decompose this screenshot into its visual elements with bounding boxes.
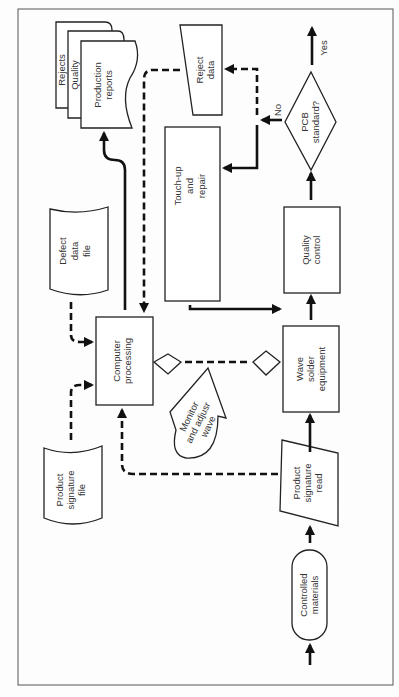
reject-data-node: Reject data (180, 25, 222, 115)
svg-text:Computer: Computer (111, 340, 122, 382)
no-label: No (272, 104, 283, 116)
controlled-materials-node: Controlled materials (292, 550, 327, 640)
flow-touchup-to-qc (190, 305, 280, 309)
svg-text:Quality: Quality (300, 235, 311, 265)
reports-stack: Rejects Quality Production reports (56, 22, 138, 128)
svg-text:signature: signature (65, 470, 76, 509)
svg-text:materials: materials (309, 575, 320, 614)
computer-processing-node: Computer processing (96, 317, 153, 405)
rejects-label: Rejects (56, 54, 67, 86)
product-signature-read-node: Product signature read (280, 440, 338, 526)
production-label: Production (92, 62, 103, 107)
svg-text:Product: Product (291, 466, 302, 499)
svg-text:processing: processing (122, 338, 133, 384)
svg-text:repair: repair (196, 174, 207, 198)
defect-data-file-node: Defect data file (50, 207, 108, 295)
svg-text:solder: solder (305, 356, 316, 382)
svg-text:file: file (76, 484, 87, 496)
flow-defect-to-computer (71, 302, 92, 342)
quality-label: Quality (69, 60, 80, 90)
connector-diamond-right (253, 351, 280, 375)
flow-no-to-touchup (224, 125, 257, 168)
svg-text:Wave: Wave (294, 357, 305, 381)
reports-label: reports (103, 70, 114, 100)
svg-text:standard?: standard? (310, 101, 321, 143)
monitor-adjust-node: Monitor and adjusr wave (170, 368, 226, 458)
svg-text:data: data (205, 60, 216, 79)
connector-diamond-left (154, 354, 181, 374)
touch-up-node: Touch-up and repair (165, 127, 220, 301)
svg-text:file: file (81, 245, 92, 257)
svg-text:Reject: Reject (194, 56, 205, 83)
svg-text:control: control (311, 236, 322, 265)
yes-label: Yes (318, 40, 329, 56)
product-signature-file-node: Product signature file (44, 446, 102, 524)
svg-text:signature: signature (302, 463, 313, 502)
flow-no-to-reject (226, 69, 257, 115)
flow-sigfile-to-computer (71, 385, 92, 440)
svg-text:equipment: equipment (316, 346, 327, 391)
svg-text:Defect: Defect (57, 237, 68, 265)
pcb-standard-decision: PCB standard? (285, 72, 336, 170)
flowchart-canvas: Rejects Quality Production reports Rejec… (0, 0, 399, 697)
wave-solder-node: Wave solder equipment (283, 326, 339, 412)
quality-control-node: Quality control (284, 207, 340, 293)
svg-text:Controlled: Controlled (298, 573, 309, 616)
svg-text:read: read (313, 473, 324, 492)
svg-text:Product: Product (54, 473, 65, 506)
svg-text:and: and (184, 178, 195, 194)
svg-text:PCB: PCB (299, 112, 310, 132)
svg-text:Touch-up: Touch-up (172, 166, 183, 205)
svg-text:data: data (69, 241, 80, 260)
